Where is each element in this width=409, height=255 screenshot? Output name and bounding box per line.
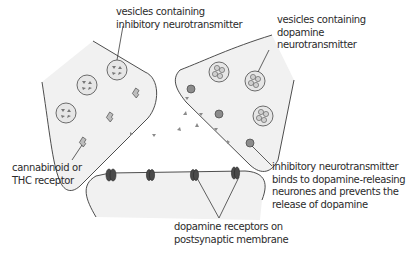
inhibitory-vesicle [107, 60, 127, 80]
inhibitory-vesicle [56, 103, 76, 123]
dopamine-vesicle [245, 71, 265, 91]
label-cannabinoid-receptor: cannabinoid or THC receptor [12, 162, 82, 187]
label-dopamine-receptors: dopamine receptors on postsynaptic membr… [174, 221, 288, 246]
dopamine-vesicle [209, 62, 229, 82]
label-inhibitory-vesicles: vesicles containing inhibitory neurotran… [116, 6, 242, 31]
dopamine-vesicle [253, 106, 273, 126]
dopamine-neuron-terminal [175, 35, 294, 171]
label-dopamine-vesicles: vesicles containing dopamine neurotransm… [277, 14, 366, 52]
inhibitory-vesicle [77, 75, 97, 95]
label-inhibitory-binding: inhibitory neurotransmitter binds to dop… [272, 161, 405, 211]
